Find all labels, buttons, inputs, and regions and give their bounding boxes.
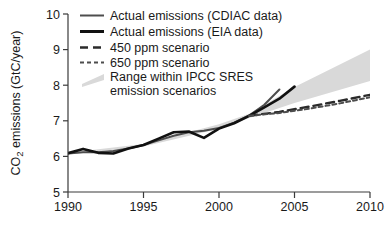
- legend-label-eia: Actual emissions (EIA data): [110, 25, 263, 39]
- legend-swatch-sres-range: [82, 74, 104, 87]
- legend-item-sres-range: Range within IPCC SRES emission scenario…: [82, 70, 253, 98]
- legend-item-450ppm: 450 ppm scenario: [80, 41, 209, 55]
- y-axis-title-post: emissions (GtC/year): [9, 31, 23, 152]
- emissions-chart-figure: 5678910 19901995200020052010 CO2 emissio…: [0, 0, 386, 235]
- y-tick-label: 8: [53, 79, 60, 93]
- x-tick-label: 2000: [205, 200, 233, 214]
- y-tick-label: 6: [53, 150, 60, 164]
- legend-label-sres-range-line2: emission scenarios: [110, 84, 216, 98]
- x-tick-label: 2005: [281, 200, 309, 214]
- y-tick-label: 5: [53, 186, 60, 200]
- x-tick-label: 2010: [356, 200, 384, 214]
- x-axis-ticks: [68, 192, 370, 198]
- chart-legend: Actual emissions (CDIAC data) Actual emi…: [80, 9, 282, 98]
- chart-svg: 5678910 19901995200020052010 CO2 emissio…: [0, 0, 386, 235]
- legend-label-cdiac: Actual emissions (CDIAC data): [110, 9, 282, 23]
- y-tick-label: 7: [53, 114, 60, 128]
- y-axis-title: CO2 emissions (GtC/year): [9, 31, 25, 176]
- y-tick-label: 9: [53, 43, 60, 57]
- legend-label-sres-range: Range within IPCC SRES: [110, 70, 253, 84]
- y-axis-ticks: [63, 14, 68, 192]
- y-tick-label: 10: [46, 8, 60, 22]
- legend-label-450ppm: 450 ppm scenario: [110, 41, 209, 55]
- legend-item-650ppm: 650 ppm scenario: [80, 56, 209, 70]
- x-tick-label: 1995: [130, 200, 158, 214]
- line-cdiac-emissions: [68, 89, 279, 153]
- svg-text:CO2 emissions (GtC/year): CO2 emissions (GtC/year): [9, 31, 25, 176]
- x-axis-tick-labels: 19901995200020052010: [54, 200, 384, 214]
- y-axis-tick-labels: 5678910: [46, 8, 60, 200]
- legend-label-650ppm: 650 ppm scenario: [110, 56, 209, 70]
- x-tick-label: 1990: [54, 200, 82, 214]
- legend-item-eia: Actual emissions (EIA data): [80, 25, 263, 39]
- y-axis-title-pre: CO: [9, 156, 23, 175]
- legend-item-cdiac: Actual emissions (CDIAC data): [80, 9, 282, 23]
